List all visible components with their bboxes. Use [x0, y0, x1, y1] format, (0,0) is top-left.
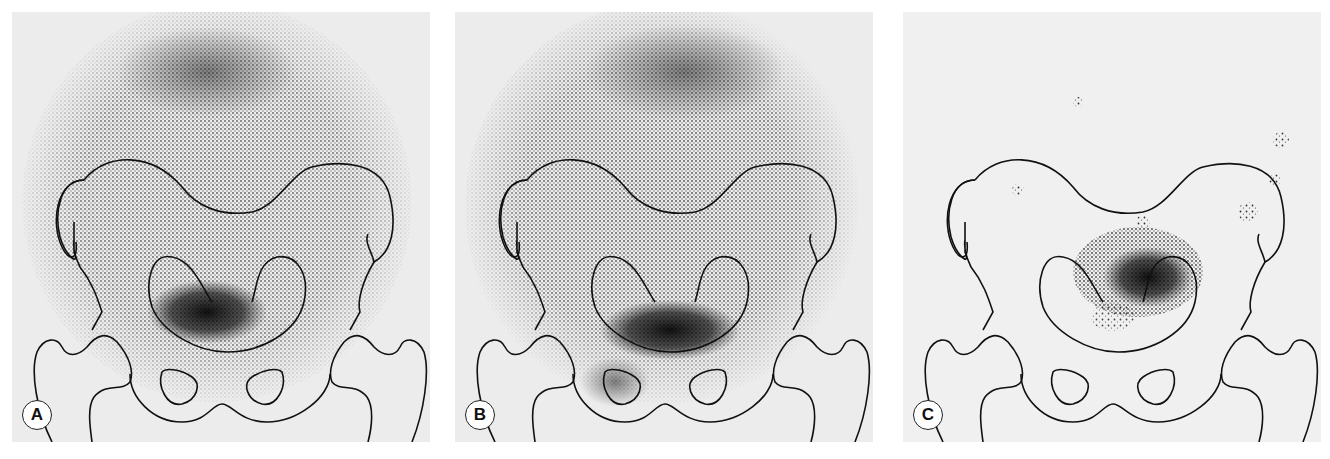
panel-a: A	[12, 12, 430, 442]
scan-image-c	[903, 12, 1321, 442]
panel-label-a: A	[22, 400, 52, 430]
activity-focus-a	[147, 280, 267, 344]
panel-c: C	[903, 12, 1321, 442]
panel-label-c: C	[913, 400, 943, 430]
scan-image-a	[12, 12, 430, 442]
panel-b: B	[455, 12, 873, 442]
panel-label-b: B	[465, 400, 495, 430]
activity-focus-c	[1103, 247, 1193, 307]
activity-focus-b	[600, 300, 740, 360]
scan-image-b	[455, 12, 873, 442]
